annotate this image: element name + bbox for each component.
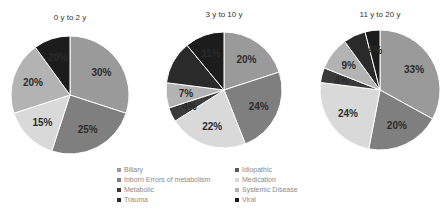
pie-data-label: 24% xyxy=(338,108,358,119)
legend-swatch xyxy=(235,168,239,172)
legend-item-inborn-errors: Inborn Errors of metabolism xyxy=(117,176,210,183)
pie-charts: 30%25%15%20%20%20%24%22%4%7%12%11%33%20%… xyxy=(0,0,448,165)
pie-data-label: 20% xyxy=(48,52,68,63)
legend-item-medication: Medication xyxy=(235,176,276,183)
legend-swatch xyxy=(117,178,121,182)
pie-data-label: 7% xyxy=(179,88,194,99)
pie-data-label: 20% xyxy=(236,54,256,65)
pie-data-label: 30% xyxy=(91,67,111,78)
legend-item-systemic-disease: Systemic Disease xyxy=(235,186,298,193)
legend-swatch xyxy=(235,178,239,182)
pie-data-label: 12% xyxy=(180,66,200,77)
legend-swatch xyxy=(117,168,121,172)
pie-data-label: 4% xyxy=(368,45,383,56)
legend-item-biliary: Biliary xyxy=(117,166,143,173)
pie-data-label: 24% xyxy=(249,101,269,112)
legend-item-viral: Viral xyxy=(235,196,256,203)
legend-swatch xyxy=(117,198,121,202)
pie-data-label: 25% xyxy=(78,124,98,135)
pie-data-label: 33% xyxy=(404,64,424,75)
pie-data-label: 22% xyxy=(202,121,222,132)
legend-swatch xyxy=(117,188,121,192)
pie-data-label: 20% xyxy=(387,120,407,131)
pie-data-label: 11% xyxy=(201,48,221,59)
legend-item-trauma: Trauma xyxy=(117,196,148,203)
pie-data-label: 20% xyxy=(23,77,43,88)
legend-swatch xyxy=(235,188,239,192)
pie-data-label: 9% xyxy=(341,60,356,71)
legend-item-idiopathic: Idiopathic xyxy=(235,166,272,173)
legend-item-metabolic: Metabolic xyxy=(117,186,154,193)
pie-data-label: 15% xyxy=(32,117,52,128)
legend-swatch xyxy=(235,198,239,202)
